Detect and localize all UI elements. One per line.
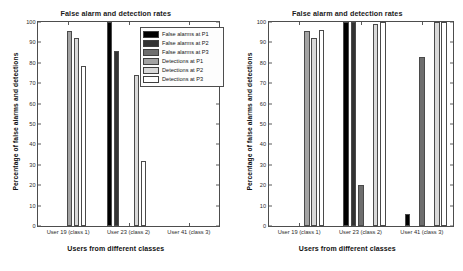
y-axis-tick-label: 90	[29, 39, 35, 45]
figure-container: False alarm and detection rates Percenta…	[0, 0, 463, 271]
y-axis-label-left: Percentage of false alarms and detection…	[12, 22, 19, 222]
legend-swatch-icon	[143, 49, 159, 56]
x-axis-tick-label: User 19 (class 1)	[47, 229, 90, 235]
legend-item: False alarms at P3	[143, 48, 221, 57]
y-axis-tick-mark	[269, 185, 272, 186]
legend-swatch-icon	[143, 31, 159, 38]
x-axis-tick-mark	[422, 22, 423, 25]
y-axis-tick-mark	[216, 103, 219, 104]
y-axis-tick-mark	[269, 164, 272, 165]
y-axis-tick-mark	[38, 42, 41, 43]
chart-title-left: False alarm and detection rates	[0, 9, 232, 18]
x-axis-tick-mark	[189, 22, 190, 25]
y-axis-tick-mark	[450, 103, 453, 104]
y-axis-tick-mark	[38, 62, 41, 63]
y-axis-tick-mark	[450, 124, 453, 125]
x-axis-tick-mark	[299, 22, 300, 25]
chart-bar	[74, 38, 79, 226]
x-axis-tick-mark	[68, 22, 69, 25]
x-axis-tick-mark	[129, 223, 130, 226]
chart-bar	[373, 24, 379, 226]
legend-item-label: False alarms at P2	[162, 40, 209, 47]
x-axis-label-left: Users from different classes	[0, 245, 232, 252]
y-axis-tick-label: 70	[29, 80, 35, 86]
chart-legend: False alarms at P1False alarms at P2Fals…	[140, 27, 224, 87]
x-axis-tick-label: User 23 (class 2)	[339, 229, 382, 235]
y-axis-tick-label: 60	[29, 101, 35, 107]
chart-bar	[107, 22, 112, 226]
y-axis-tick-label: 40	[29, 141, 35, 147]
y-axis-tick-mark	[216, 124, 219, 125]
chart-bar	[81, 66, 86, 226]
y-axis-tick-label: 40	[260, 141, 266, 147]
y-axis-tick-label: 20	[29, 182, 35, 188]
legend-swatch-icon	[143, 40, 159, 47]
x-axis-tick-mark	[189, 223, 190, 226]
y-axis-tick-mark	[38, 22, 41, 23]
chart-bar	[419, 57, 425, 226]
y-axis-tick-label: 30	[29, 162, 35, 168]
y-axis-tick-label: 60	[260, 101, 266, 107]
y-axis-tick-mark	[216, 205, 219, 206]
y-axis-tick-mark	[216, 185, 219, 186]
y-axis-tick-mark	[269, 144, 272, 145]
legend-item-label: Detections at P2	[162, 67, 203, 74]
y-axis-tick-label: 80	[29, 60, 35, 66]
y-axis-tick-label: 10	[29, 203, 35, 209]
x-axis-tick-label: User 41 (class 3)	[167, 229, 210, 235]
y-axis-tick-mark	[38, 226, 41, 227]
y-axis-tick-mark	[450, 22, 453, 23]
legend-item: Detections at P2	[143, 66, 221, 75]
chart-bar	[311, 38, 317, 226]
chart-title-right: False alarm and detection rates	[232, 9, 463, 18]
legend-swatch-icon	[143, 67, 159, 74]
y-axis-tick-mark	[269, 226, 272, 227]
legend-item-label: False alarms at P1	[162, 31, 209, 38]
chart-bar	[441, 22, 447, 226]
y-axis-tick-mark	[269, 124, 272, 125]
x-axis-tick-label: User 23 (class 2)	[107, 229, 150, 235]
y-axis-tick-label: 50	[29, 121, 35, 127]
y-axis-tick-mark	[38, 164, 41, 165]
y-axis-tick-mark	[269, 22, 272, 23]
y-axis-tick-label: 0	[32, 223, 35, 229]
y-axis-tick-mark	[216, 144, 219, 145]
y-axis-tick-label: 30	[260, 162, 266, 168]
legend-item: Detections at P3	[143, 75, 221, 84]
y-axis-tick-label: 50	[260, 121, 266, 127]
legend-item-label: False alarms at P3	[162, 49, 209, 56]
legend-item-label: Detections at P3	[162, 76, 203, 83]
legend-item: Detections at P1	[143, 57, 221, 66]
y-axis-label-right: Percentage of false alarms and detection…	[245, 22, 252, 222]
y-axis-tick-mark	[38, 205, 41, 206]
y-axis-tick-mark	[450, 42, 453, 43]
y-axis-tick-label: 0	[263, 223, 266, 229]
y-axis-tick-label: 100	[257, 19, 266, 25]
y-axis-tick-label: 70	[260, 80, 266, 86]
y-axis-tick-mark	[450, 205, 453, 206]
y-axis-tick-label: 100	[26, 19, 35, 25]
y-axis-tick-mark	[216, 22, 219, 23]
x-axis-tick-mark	[129, 22, 130, 25]
x-axis-tick-label: User 41 (class 3)	[400, 229, 443, 235]
legend-item: False alarms at P2	[143, 39, 221, 48]
chart-bar	[405, 214, 411, 226]
y-axis-tick-mark	[38, 103, 41, 104]
chart-bar	[380, 22, 386, 226]
chart-bar	[304, 31, 310, 226]
chart-panel-left: False alarm and detection rates Percenta…	[0, 0, 232, 271]
legend-item: False alarms at P1	[143, 30, 221, 39]
chart-bar	[343, 22, 349, 226]
x-axis-tick-label: User 19 (class 1)	[278, 229, 321, 235]
y-axis-tick-mark	[269, 103, 272, 104]
x-axis-label-right: Users from different classes	[232, 245, 463, 252]
y-axis-tick-label: 10	[260, 203, 266, 209]
chart-panel-right: False alarm and detection rates Percenta…	[232, 0, 463, 271]
y-axis-tick-mark	[269, 42, 272, 43]
y-axis-tick-mark	[269, 205, 272, 206]
y-axis-tick-mark	[216, 226, 219, 227]
y-axis-tick-mark	[38, 185, 41, 186]
y-axis-tick-label: 90	[260, 39, 266, 45]
y-axis-tick-mark	[450, 226, 453, 227]
legend-swatch-icon	[143, 76, 159, 83]
